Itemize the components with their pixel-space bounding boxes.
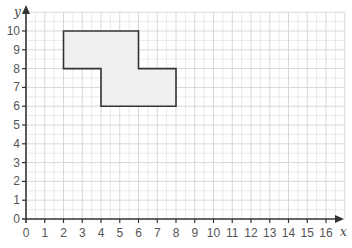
x-tick-label: 10 xyxy=(207,226,221,240)
shaded-polygon xyxy=(64,31,177,106)
x-tick-label: 0 xyxy=(23,226,30,240)
y-tick-label: 4 xyxy=(13,137,20,151)
y-tick-label: 3 xyxy=(13,156,20,170)
y-axis-arrow-icon xyxy=(22,5,30,14)
x-axis-label: x xyxy=(340,225,347,239)
x-tick-label: 15 xyxy=(301,226,315,240)
x-tick-label: 16 xyxy=(319,226,333,240)
x-tick-label: 8 xyxy=(173,226,180,240)
y-tick-label: 5 xyxy=(13,118,20,132)
x-tick-label: 2 xyxy=(60,226,67,240)
x-tick-label: 11 xyxy=(226,226,239,240)
y-tick-label: 0 xyxy=(13,212,20,226)
y-tick-label: 8 xyxy=(13,62,20,76)
y-tick-label: 10 xyxy=(7,24,21,38)
y-tick-label: 2 xyxy=(13,174,20,188)
y-tick-label: 6 xyxy=(13,99,20,113)
coordinate-grid: x y 012345678910111213141516012345678910 xyxy=(0,0,352,248)
x-tick-label: 6 xyxy=(135,226,142,240)
x-tick-label: 5 xyxy=(116,226,123,240)
y-axis-label: y xyxy=(13,5,21,19)
y-tick-label: 7 xyxy=(13,80,20,94)
x-tick-label: 3 xyxy=(79,226,86,240)
x-tick-label: 13 xyxy=(263,226,277,240)
x-tick-label: 7 xyxy=(154,226,161,240)
x-tick-label: 1 xyxy=(41,226,48,240)
tick-labels: 012345678910111213141516012345678910 xyxy=(7,24,333,240)
y-tick-label: 9 xyxy=(13,43,20,57)
x-tick-label: 12 xyxy=(244,226,258,240)
y-tick-label: 1 xyxy=(13,193,20,207)
x-tick-label: 14 xyxy=(282,226,296,240)
x-tick-label: 9 xyxy=(191,226,198,240)
x-tick-label: 4 xyxy=(98,226,105,240)
x-axis-arrow-icon xyxy=(335,215,344,223)
